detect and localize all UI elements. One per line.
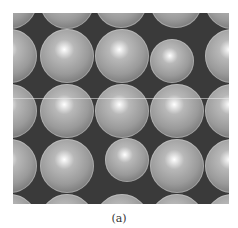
sphere [150, 39, 194, 83]
sphere [13, 29, 37, 83]
sphere [150, 139, 204, 193]
sphere [40, 13, 94, 29]
guide-line [13, 98, 229, 99]
sphere [13, 84, 37, 138]
sphere [40, 139, 94, 193]
sphere [13, 13, 37, 29]
sphere [205, 84, 229, 138]
sphere [95, 13, 147, 28]
sphere [150, 84, 204, 138]
sphere [150, 194, 204, 204]
sphere [205, 194, 229, 204]
sphere [205, 13, 229, 29]
sphere [95, 29, 149, 83]
sphere [105, 138, 149, 182]
sphere [205, 29, 229, 83]
sphere [40, 29, 94, 83]
sphere-packing-image [13, 13, 229, 204]
sphere [40, 84, 94, 138]
figure: (a) [0, 0, 238, 228]
sphere [13, 194, 37, 204]
sphere [150, 13, 202, 28]
sphere [205, 139, 229, 193]
sphere [40, 194, 94, 204]
sphere [95, 194, 149, 204]
sphere [95, 84, 149, 138]
sphere [13, 139, 37, 193]
figure-caption: (a) [0, 212, 238, 225]
